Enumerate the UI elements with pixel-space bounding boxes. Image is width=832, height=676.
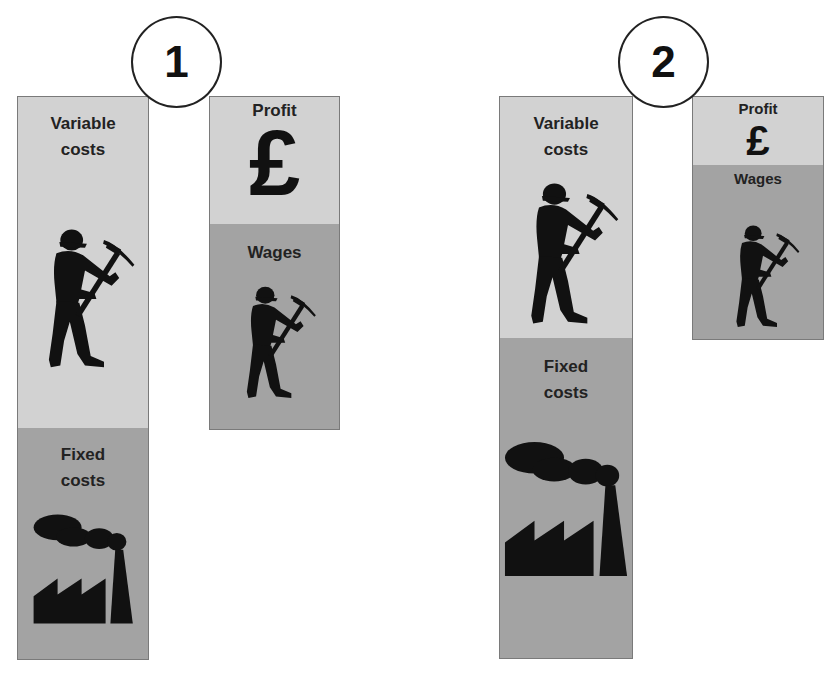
revenue-column: Profit £ Wages: [209, 96, 340, 430]
fixed-costs-label-line2: costs: [500, 382, 632, 403]
miner-with-pickaxe-icon: [230, 281, 322, 403]
variable-costs-segment: Variable costs: [18, 97, 148, 428]
variable-costs-label-line1: Variable: [18, 113, 148, 134]
pound-sign-icon: £: [210, 115, 339, 211]
scenario-number: 2: [651, 37, 675, 86]
revenue-column: Profit £ Wages: [692, 96, 824, 340]
variable-costs-label-line2: costs: [500, 139, 632, 160]
fixed-costs-segment: Fixed costs: [18, 428, 148, 659]
costs-column: Variable costs Fixed costs: [499, 96, 633, 659]
variable-costs-label-line2: costs: [18, 139, 148, 160]
fixed-costs-segment: Fixed costs: [500, 338, 632, 658]
miner-with-pickaxe-icon: [510, 179, 626, 327]
factory-icon: [503, 439, 631, 579]
costs-column: Variable costs Fixed costs: [17, 96, 149, 660]
profit-segment: Profit £: [210, 97, 339, 224]
wages-segment: Wages: [693, 165, 823, 339]
scenario-number: 1: [164, 37, 188, 86]
miner-with-pickaxe-icon: [721, 217, 805, 335]
profit-label: Profit: [693, 100, 823, 118]
scenario-number-badge: 2: [618, 16, 709, 108]
wages-label: Wages: [210, 242, 339, 263]
profit-segment: Profit £: [693, 97, 823, 165]
scenario-number-badge: 1: [131, 16, 222, 108]
pound-sign-icon: £: [693, 119, 823, 163]
wages-label: Wages: [693, 170, 823, 188]
fixed-costs-label-line2: costs: [18, 470, 148, 491]
variable-costs-label-line1: Variable: [500, 113, 632, 134]
variable-costs-segment: Variable costs: [500, 97, 632, 338]
wages-segment: Wages: [210, 224, 339, 429]
fixed-costs-label-line1: Fixed: [500, 356, 632, 377]
fixed-costs-label-line1: Fixed: [18, 444, 148, 465]
miner-with-pickaxe-icon: [28, 223, 142, 373]
factory-icon: [32, 513, 136, 625]
